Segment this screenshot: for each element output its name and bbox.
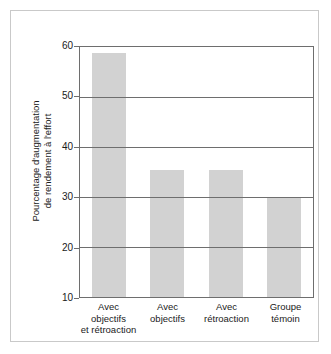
y-tick-label: 20 xyxy=(62,243,73,253)
y-tick-label: 60 xyxy=(62,41,73,51)
gridline-20 xyxy=(80,247,313,248)
y-tick-label: 30 xyxy=(62,192,73,202)
bar-series xyxy=(80,47,313,297)
bar-avec-objectifs-et-retroaction xyxy=(92,53,126,297)
x-tick-label-avec-retroaction: Avec rétroaction xyxy=(197,301,256,351)
x-axis-tick-labels: Avec objectifs et rétroaction Avec objec… xyxy=(79,301,315,351)
x-tick-label-line: rétroaction xyxy=(197,313,256,325)
figure-border: 60 50 40 30 20 10 Pourcentage d'augmenta… xyxy=(10,10,319,342)
plot-area xyxy=(79,46,314,298)
y-tick-mark xyxy=(74,298,79,299)
y-axis-title-line-2: de rendement à l'effort xyxy=(42,114,54,209)
x-tick-label-line: objectifs xyxy=(79,313,138,325)
gridline-30 xyxy=(80,197,313,198)
bar-avec-objectifs xyxy=(150,170,184,298)
x-tick-label-line: et rétroaction xyxy=(79,324,138,336)
y-axis-title-line-1: Pourcentage d'augmentation xyxy=(30,100,42,221)
x-tick-label-line: Avec xyxy=(197,301,256,313)
x-tick-label-groupe-temoin: Groupe témoin xyxy=(256,301,315,351)
y-tick-label: 40 xyxy=(62,142,73,152)
x-tick-label-avec-objectifs: Avec objectifs xyxy=(138,301,197,351)
y-axis-title: Pourcentage d'augmentation de rendement … xyxy=(27,66,57,256)
gridline-50 xyxy=(80,97,313,98)
gridline-40 xyxy=(80,147,313,148)
x-tick-label-line: Groupe xyxy=(256,301,315,313)
y-tick-label: 50 xyxy=(62,91,73,101)
y-tick-label: 10 xyxy=(62,293,73,303)
x-tick-label-line: témoin xyxy=(256,313,315,325)
bar-avec-retroaction xyxy=(209,170,243,297)
x-tick-label-line: objectifs xyxy=(138,313,197,325)
x-tick-label-line: Avec xyxy=(79,301,138,313)
chart-figure: 60 50 40 30 20 10 Pourcentage d'augmenta… xyxy=(0,0,331,354)
x-tick-label-line: Avec xyxy=(138,301,197,313)
x-tick-label-avec-objectifs-et-retroaction: Avec objectifs et rétroaction xyxy=(79,301,138,351)
